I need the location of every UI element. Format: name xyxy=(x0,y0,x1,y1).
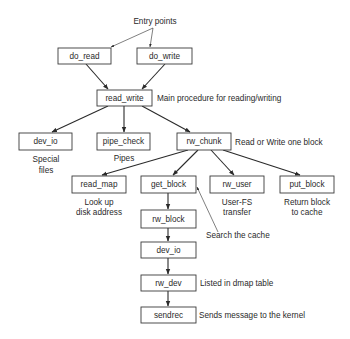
note-read_map-line2: disk address xyxy=(76,208,122,217)
edge-entry-do_read xyxy=(111,28,153,47)
node-label: rw_block xyxy=(152,215,185,224)
node-read-map: read_map xyxy=(72,176,126,193)
node-label: sendrec xyxy=(154,311,183,320)
node-put-block: put_block xyxy=(280,176,334,193)
node-dev-io-2: dev_io xyxy=(141,242,196,258)
edge-read_write-dev_io xyxy=(52,106,108,132)
node-get-block: get_block xyxy=(141,176,196,193)
node-label: dev_io xyxy=(156,246,181,255)
note-read_map-line1: Look up xyxy=(84,198,114,207)
note-pipe_check: Pipes xyxy=(114,154,134,163)
note-get_block: Search the cache xyxy=(206,231,270,240)
node-label: do_read xyxy=(69,52,99,61)
node-label: read_map xyxy=(81,180,118,189)
node-label: pipe_check xyxy=(103,137,145,146)
node-dev-io-1: dev_io xyxy=(19,133,72,150)
edge-entry-do_write xyxy=(150,28,153,47)
node-read-write: read_write xyxy=(97,90,152,106)
node-sendrec: sendrec xyxy=(141,307,196,323)
edge-do_write-read_write xyxy=(142,64,165,89)
node-label: rw_dev xyxy=(155,279,182,288)
nodes-layer: do_readdo_writeread_writedev_iopipe_chec… xyxy=(19,48,334,323)
node-rw-chunk: rw_chunk xyxy=(177,133,231,150)
edge-rw_chunk-put_block xyxy=(223,150,300,175)
note-rw_chunk: Read or Write one block xyxy=(235,138,324,147)
node-label: read_write xyxy=(105,94,144,103)
node-do-write: do_write xyxy=(137,48,192,64)
entry-points-label: Entry points xyxy=(133,17,176,26)
note-put_block-line2: to cache xyxy=(292,208,323,217)
edge-read_write-rw_chunk xyxy=(142,106,190,132)
note-dev_io-line1: Special xyxy=(33,155,60,164)
edge-rw_chunk-rw_user xyxy=(211,150,234,175)
node-do-read: do_read xyxy=(58,48,111,64)
node-label: dev_io xyxy=(33,137,58,146)
node-rw-dev: rw_dev xyxy=(141,275,196,291)
note-sendrec: Sends message to the kernel xyxy=(199,311,305,320)
node-label: rw_chunk xyxy=(186,137,222,146)
note-dev_io-line2: files xyxy=(39,166,54,175)
node-label: get_block xyxy=(151,180,187,189)
node-label: do_write xyxy=(149,52,180,61)
node-rw-user: rw_user xyxy=(210,176,264,193)
edge-do_read-read_write xyxy=(86,64,108,89)
node-rw-block: rw_block xyxy=(141,210,196,228)
node-label: rw_user xyxy=(222,180,251,189)
note-rw_user-line1: User-FS xyxy=(222,198,253,207)
edges-layer xyxy=(52,28,300,306)
note-rw_dev: Listed in dmap table xyxy=(200,279,274,288)
note-put_block-line1: Return block xyxy=(284,198,331,207)
note-read_write: Main procedure for reading/writing xyxy=(157,94,282,103)
call-graph-diagram: Entry points do_readdo_writeread_writede… xyxy=(0,0,350,339)
node-label: put_block xyxy=(289,180,325,189)
note-rw_user-line2: transfer xyxy=(223,208,251,217)
node-pipe-check: pipe_check xyxy=(97,133,150,150)
leader-search-cache xyxy=(197,187,218,232)
